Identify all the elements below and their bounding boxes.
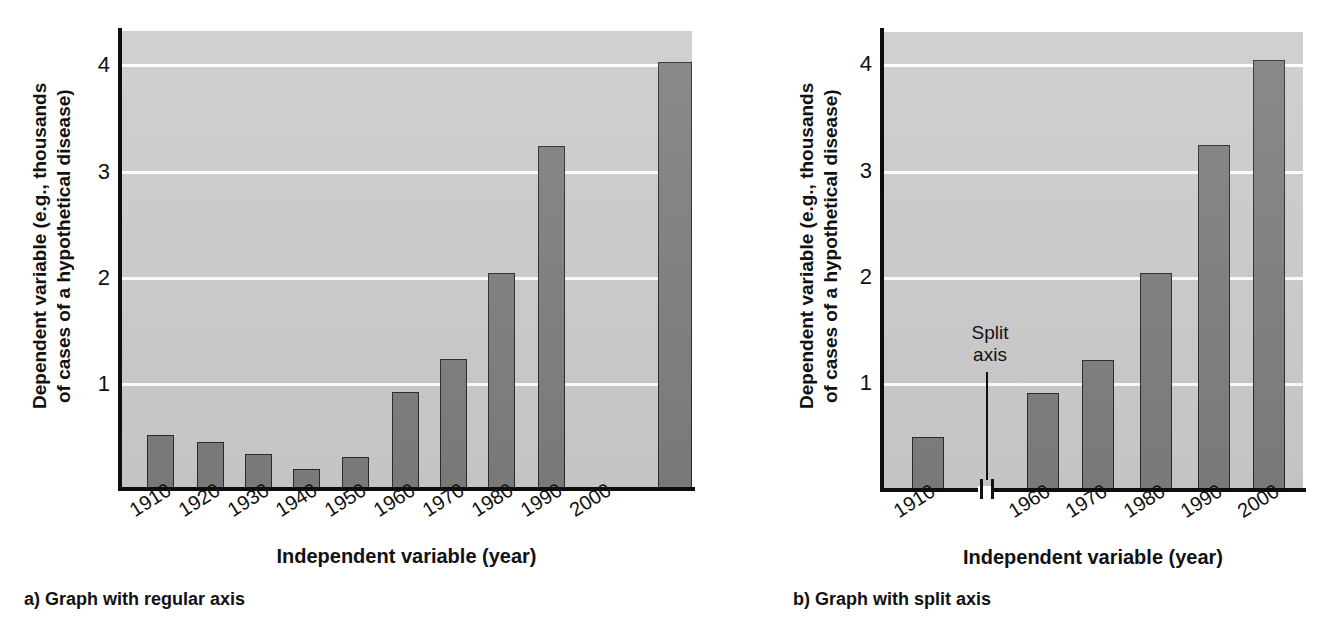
bar-2000 xyxy=(658,62,692,488)
panel-a: Dependent variable (e.g., thousands of c… xyxy=(0,0,700,625)
panel-b-gridline-2 xyxy=(883,277,1303,280)
panel-b-gridline-3 xyxy=(883,171,1303,174)
split-axis-label: Splitaxis xyxy=(940,322,1040,366)
panel-b-ytick-1: 1 xyxy=(846,372,872,394)
panel-b-ytick-4: 4 xyxy=(846,53,872,75)
panel-a-ytick-4: 4 xyxy=(84,54,110,76)
bar-1970 xyxy=(1082,360,1114,490)
panel-a-ytick-1: 1 xyxy=(84,373,110,395)
split-axis-label-line1: Split xyxy=(972,322,1009,343)
bar-2000 xyxy=(1253,60,1285,490)
panel-a-plot-area xyxy=(121,31,692,488)
panel-a-ytick-3: 3 xyxy=(84,161,110,183)
figure-root: Dependent variable (e.g., thousands of c… xyxy=(0,0,1329,625)
panel-a-gridline-2 xyxy=(121,277,692,280)
bar-1960 xyxy=(1027,393,1059,490)
panel-a-gridline-1 xyxy=(121,383,692,386)
panel-b-caption: b) Graph with split axis xyxy=(793,589,991,610)
panel-b-plot-area xyxy=(883,32,1303,490)
split-axis-label-line2: axis xyxy=(973,344,1007,365)
panel-b-y-axis-title: Dependent variable (e.g., thousands of c… xyxy=(795,36,843,456)
panel-b-y-axis-line xyxy=(880,28,884,492)
bar-1970 xyxy=(440,359,467,488)
panel-a-x-axis-title: Independent variable (year) xyxy=(121,545,692,568)
panel-a-y-axis-title: Dependent variable (e.g., thousands of c… xyxy=(28,36,76,456)
bar-1980 xyxy=(488,273,515,488)
panel-a-y-axis-line xyxy=(118,28,122,491)
panel-a-gridline-3 xyxy=(121,171,692,174)
bar-1980 xyxy=(1140,273,1172,490)
panel-b-ytick-2: 2 xyxy=(846,266,872,288)
split-axis-leader-line xyxy=(986,372,988,480)
split-axis-tick-right xyxy=(991,479,994,499)
panel-a-ytick-2: 2 xyxy=(84,267,110,289)
panel-a-gridline-4 xyxy=(121,64,692,67)
bar-1990 xyxy=(538,146,565,488)
panel-b-ytick-3: 3 xyxy=(846,160,872,182)
bar-1960 xyxy=(392,392,419,488)
panel-b: Dependent variable (e.g., thousands of c… xyxy=(700,0,1329,625)
panel-a-caption: a) Graph with regular axis xyxy=(24,589,245,610)
bar-1990 xyxy=(1198,145,1230,490)
panel-b-gridline-4 xyxy=(883,64,1303,67)
split-axis-tick-left xyxy=(980,479,983,499)
panel-b-x-axis-title: Independent variable (year) xyxy=(883,546,1303,569)
